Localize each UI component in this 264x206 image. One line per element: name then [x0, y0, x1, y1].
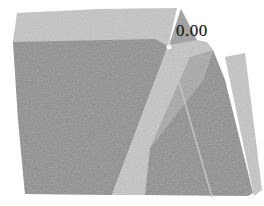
- surface-facets: [13, 8, 262, 197]
- tick-value-label: 0.00: [176, 22, 208, 39]
- vertex-marker-dot: [166, 44, 171, 49]
- surface-plot-figure: 0.00: [0, 0, 264, 206]
- surface-plot: [0, 0, 264, 206]
